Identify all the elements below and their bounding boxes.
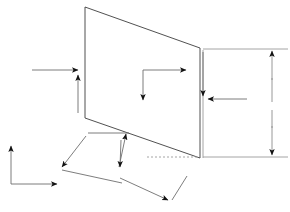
bracket-bottom-arm (62, 170, 122, 183)
bracket-right-down-arrow (120, 140, 121, 167)
right-inner-arrow-group (203, 52, 247, 99)
right-extension-lines (203, 49, 288, 158)
bottom-left-coordinate-axis (11, 146, 57, 184)
inner-axis-indicator (143, 70, 186, 100)
drawing-canvas (0, 0, 290, 212)
technical-drawing-svg (0, 0, 290, 212)
lower-vee-right-arm (172, 176, 187, 200)
main-quadrilateral (85, 7, 200, 158)
bracket-left-arm-arrow (62, 136, 86, 167)
lower-vee-left-arm (120, 178, 168, 200)
lower-vee-group (120, 176, 187, 200)
angled-bracket-group (62, 133, 129, 183)
main-panel-group (85, 7, 200, 158)
left-arrow-group (32, 70, 78, 113)
